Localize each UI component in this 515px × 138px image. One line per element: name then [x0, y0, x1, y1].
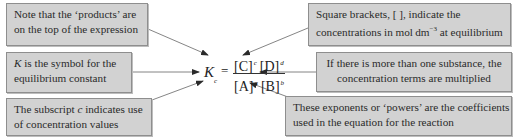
annotation-text: at equilibrium: [437, 26, 503, 38]
k-symbol: K: [204, 65, 214, 79]
annotation-k-symbol: K is the symbol for the equilibrium cons…: [6, 52, 132, 93]
annotation-text: is the symbol for the: [21, 57, 116, 69]
annotation-multiplied: If there is more than one substance, the…: [316, 52, 512, 92]
annotation-products: Note that the ‘products’ are on the top …: [6, 3, 148, 46]
annotation-text: used in the equation for the reaction: [293, 115, 504, 130]
annotation-text: The subscript: [14, 103, 77, 115]
unit-exponent: −3: [429, 25, 436, 33]
annotation-text: equilibrium constant: [14, 71, 124, 86]
annotation-text: of concentration values: [14, 117, 144, 132]
arrow-square-brackets: [243, 28, 308, 55]
annotation-text: concentration terms are multiplied: [324, 71, 504, 86]
species-c: [C]: [234, 59, 253, 74]
species-b: [B]: [261, 79, 280, 94]
equals-sign: =: [221, 64, 228, 78]
fraction-bar: [233, 73, 285, 74]
arrow-subscript-c: [152, 81, 203, 100]
annotation-text: If there is more than one substance, the: [324, 56, 504, 71]
exponent-b: b: [281, 79, 285, 87]
annotation-exponents: These exponents or ‘powers’ are the coef…: [285, 96, 512, 136]
k-subscript: c: [214, 74, 217, 88]
annotation-text: Square brackets, [ ], indicate the: [316, 7, 503, 22]
exponent-a: a: [254, 79, 258, 87]
exponent-d: d: [280, 59, 284, 67]
annotation-text: Note that the ‘products’ are: [14, 7, 140, 22]
exponent-c: c: [254, 59, 257, 67]
annotation-square-brackets: Square brackets, [ ], indicate the conce…: [308, 3, 511, 46]
species-a: [A]: [234, 79, 253, 94]
annotation-text: concentrations in mol dm: [316, 26, 429, 38]
species-d: [D]: [260, 59, 279, 74]
annotation-text: indicates use: [82, 103, 142, 115]
numerator: [C]c[D]d: [234, 56, 287, 74]
annotation-subscript-c: The subscript c indicates use of concent…: [6, 98, 152, 136]
denominator: [A]a[B]b: [234, 76, 287, 94]
annotation-text: on the top of the expression: [14, 22, 140, 37]
arrow-products: [148, 29, 208, 55]
annotation-text: These exponents or ‘powers’ are the coef…: [293, 100, 504, 115]
